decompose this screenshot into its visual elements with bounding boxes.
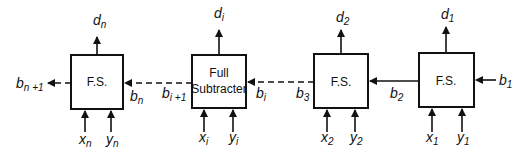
svg-text:bi: bi xyxy=(256,85,267,103)
svg-text:d2: d2 xyxy=(336,9,350,27)
svg-text:y2: y2 xyxy=(349,129,363,147)
svg-text:yi: yi xyxy=(228,129,239,147)
svg-text:d1: d1 xyxy=(441,6,454,24)
svg-text:di: di xyxy=(214,5,225,23)
svg-text:bi +1: bi +1 xyxy=(162,85,186,103)
svg-text:xn: xn xyxy=(78,131,92,149)
block-fs-n: F.S. dn xn yn bn +1 bn xyxy=(16,12,144,149)
block-full-subtracter: Full Subtracter di xi yi bi +1 bi xyxy=(162,5,267,147)
block-label-line1: Full xyxy=(209,66,228,80)
svg-text:bn +1: bn +1 xyxy=(16,75,44,93)
svg-text:b3: b3 xyxy=(296,85,310,103)
b-in-label: b xyxy=(499,72,507,88)
b-in-label: b xyxy=(130,88,138,104)
b-in-label: b xyxy=(256,85,264,101)
svg-text:yn: yn xyxy=(105,131,119,149)
svg-text:bn: bn xyxy=(130,88,144,106)
block-fs-2: F.S. d2 x2 y2 b3 b2 xyxy=(296,9,404,147)
subtracter-chain-diagram: F.S. dn xn yn bn +1 bn Full Subtracter d… xyxy=(0,0,527,153)
svg-text:x2: x2 xyxy=(320,129,334,147)
b-out-label: b xyxy=(16,75,24,91)
b-out-label: b xyxy=(162,85,170,101)
block-label: F.S. xyxy=(436,74,457,88)
b-in-label: b xyxy=(390,85,398,101)
block-fs-1: F.S. d1 x1 y1 b1 xyxy=(419,6,512,147)
block-label: F.S. xyxy=(331,75,352,89)
svg-text:b2: b2 xyxy=(390,85,404,103)
svg-text:dn: dn xyxy=(93,12,107,30)
svg-text:xi: xi xyxy=(198,129,209,147)
svg-text:y1: y1 xyxy=(456,129,470,147)
block-label-line2: Subtracter xyxy=(191,82,246,96)
svg-text:b1: b1 xyxy=(499,72,512,90)
b-out-label: b xyxy=(296,85,304,101)
svg-text:x1: x1 xyxy=(425,129,439,147)
block-label: F.S. xyxy=(87,75,108,89)
